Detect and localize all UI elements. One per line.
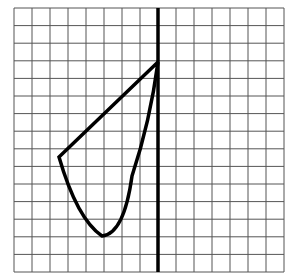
grid-lines (14, 8, 284, 272)
grid-figure (0, 0, 290, 278)
